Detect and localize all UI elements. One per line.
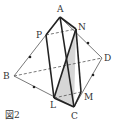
label-c: C	[71, 111, 78, 121]
tetrahedron-diagram: A N P D B L M C 図2	[0, 0, 120, 128]
label-l: L	[50, 100, 56, 110]
label-m: M	[84, 92, 93, 102]
label-a: A	[56, 4, 64, 14]
label-n: N	[78, 22, 86, 32]
label-b: B	[3, 71, 10, 81]
label-d: D	[104, 53, 111, 63]
figure-caption: 図2	[5, 110, 20, 120]
label-p: P	[36, 30, 42, 40]
